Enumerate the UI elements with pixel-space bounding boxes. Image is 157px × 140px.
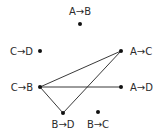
edges — [40, 51, 121, 113]
edge-bd-ac — [63, 51, 121, 113]
node-label: C→D — [10, 46, 33, 57]
node-dot — [61, 111, 65, 115]
nodes: A→BC→DA→CC→BA→DB→DB→C — [10, 6, 153, 130]
node-label: B→D — [52, 119, 75, 130]
node-dot — [78, 22, 82, 26]
graph-diagram: A→BC→DA→CC→BA→DB→DB→C — [0, 0, 157, 140]
node-label: A→D — [130, 82, 153, 93]
node-cb: C→B — [11, 82, 42, 93]
node-dot — [38, 85, 42, 89]
edge-cb-bd — [40, 87, 63, 113]
node-ac: A→C — [119, 46, 152, 57]
node-dot — [119, 49, 123, 53]
node-dot — [38, 49, 42, 53]
edge-cb-ac — [40, 51, 121, 87]
node-ab: A→B — [69, 6, 91, 26]
node-bc: B→C — [87, 110, 109, 130]
node-dot — [96, 110, 100, 114]
node-cd: C→D — [10, 46, 42, 57]
node-bd: B→D — [52, 111, 75, 130]
node-ad: A→D — [119, 82, 153, 93]
node-label: A→C — [130, 46, 152, 57]
node-dot — [119, 85, 123, 89]
node-label: B→C — [87, 119, 109, 130]
node-label: A→B — [69, 6, 91, 17]
node-label: C→B — [11, 82, 33, 93]
